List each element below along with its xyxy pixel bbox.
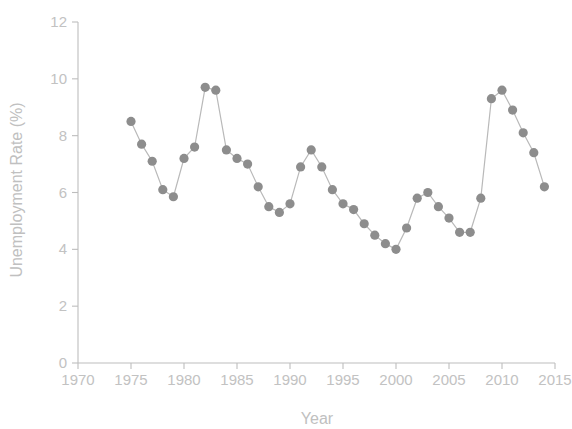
x-tick-label: 2015: [538, 371, 571, 388]
data-point: [391, 245, 400, 254]
unemployment-rate-chart: 024681012 197019751980198519901995200020…: [0, 0, 572, 429]
x-tick-label: 2000: [379, 371, 412, 388]
data-point: [381, 239, 390, 248]
data-point: [275, 208, 284, 217]
data-point: [349, 205, 358, 214]
data-point: [487, 94, 496, 103]
data-point: [243, 159, 252, 168]
data-point: [232, 154, 241, 163]
data-point: [307, 145, 316, 154]
data-point: [338, 199, 347, 208]
data-point: [370, 231, 379, 240]
y-axis-title: Unemployment Rate (%): [8, 102, 25, 277]
data-point: [508, 105, 517, 114]
x-tick-label: 1985: [220, 371, 253, 388]
data-point: [211, 86, 220, 95]
data-point: [137, 140, 146, 149]
x-tick-label: 2010: [485, 371, 518, 388]
data-point: [190, 142, 199, 151]
data-point: [201, 83, 210, 92]
y-tick-label: 12: [50, 13, 67, 30]
y-tick-label: 0: [59, 354, 67, 371]
y-tick-label: 4: [59, 240, 67, 257]
data-point: [466, 228, 475, 237]
chart-canvas: 024681012 197019751980198519901995200020…: [0, 0, 572, 429]
x-tick-label: 1970: [61, 371, 94, 388]
x-axis: 1970197519801985199019952000200520102015: [61, 363, 571, 388]
data-point: [296, 162, 305, 171]
data-point: [285, 199, 294, 208]
data-point: [169, 192, 178, 201]
data-point: [434, 202, 443, 211]
data-point: [148, 157, 157, 166]
data-point: [413, 194, 422, 203]
x-axis-title: Year: [301, 410, 334, 427]
x-tick-label: 1990: [273, 371, 306, 388]
data-point: [423, 188, 432, 197]
data-point: [179, 154, 188, 163]
x-tick-label: 1975: [114, 371, 147, 388]
data-point: [264, 202, 273, 211]
y-tick-label: 8: [59, 127, 67, 144]
data-point: [317, 162, 326, 171]
y-tick-label: 10: [50, 70, 67, 87]
y-tick-label: 2: [59, 297, 67, 314]
data-point: [222, 145, 231, 154]
data-point: [444, 213, 453, 222]
data-point: [126, 117, 135, 126]
data-point: [529, 148, 538, 157]
x-tick-label: 1995: [326, 371, 359, 388]
data-point: [328, 185, 337, 194]
data-point: [497, 86, 506, 95]
data-point: [402, 223, 411, 232]
series-line: [131, 87, 544, 249]
data-point: [254, 182, 263, 191]
data-series-unemployment-rate: [126, 83, 549, 254]
x-tick-label: 2005: [432, 371, 465, 388]
y-tick-label: 6: [59, 184, 67, 201]
data-point: [455, 228, 464, 237]
data-point: [158, 185, 167, 194]
y-axis: 024681012: [50, 13, 78, 371]
data-point: [540, 182, 549, 191]
data-point: [519, 128, 528, 137]
x-tick-label: 1980: [167, 371, 200, 388]
data-point: [360, 219, 369, 228]
data-point: [476, 194, 485, 203]
